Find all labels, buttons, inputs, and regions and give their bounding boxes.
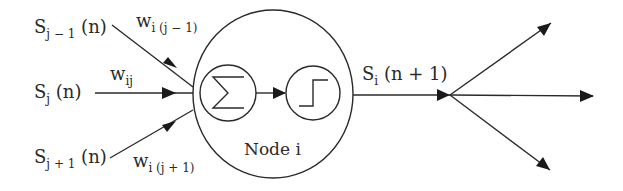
branch-middle-arrowhead (580, 90, 594, 102)
diagram-svg: Sj − 1 (n) wi (j − 1) Sj (n) wij Sj + 1 … (0, 0, 623, 191)
branch-down-arrowhead (536, 157, 550, 170)
output: Si (n + 1) (353, 23, 594, 170)
neuron-diagram: Sj − 1 (n) wi (j − 1) Sj (n) wij Sj + 1 … (0, 0, 623, 191)
node-label: Node i (244, 139, 301, 159)
input-top-weight-label: wi (j − 1) (136, 10, 197, 35)
summation-icon (213, 77, 244, 108)
input-middle-arrowhead (162, 87, 176, 99)
branch-down-edge (450, 95, 550, 170)
internal-arrowhead (273, 87, 286, 99)
branch-up-arrowhead (537, 23, 551, 36)
input-bottom-edge (110, 110, 193, 158)
input-middle-weight-label: wij (110, 63, 133, 88)
output-arrowhead (437, 89, 450, 101)
branch-up-edge (450, 23, 551, 95)
input-bottom-signal-label: Sj + 1 (n) (34, 146, 107, 171)
input-bottom-arrowhead (162, 121, 176, 132)
input-middle-signal-label: Sj (n) (34, 81, 81, 106)
input-bottom: Sj + 1 (n) wi (j + 1) (34, 110, 194, 175)
input-top-signal-label: Sj − 1 (n) (34, 16, 107, 41)
input-bottom-weight-label: wi (j + 1) (133, 150, 194, 175)
step-function-icon (299, 80, 328, 106)
node-i: Node i (193, 10, 353, 178)
branch-middle-edge (450, 95, 593, 96)
output-signal-label: Si (n + 1) (362, 63, 448, 88)
